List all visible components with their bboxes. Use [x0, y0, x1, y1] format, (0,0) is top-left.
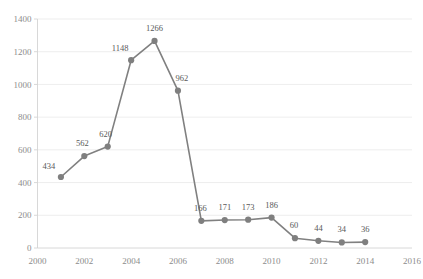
data-point-marker — [339, 239, 345, 245]
data-point-marker — [268, 214, 274, 220]
y-tick-label: 1400 — [14, 14, 33, 24]
data-point-marker — [222, 217, 228, 223]
y-tick-label: 1200 — [14, 47, 33, 57]
data-point-label: 166 — [194, 203, 207, 213]
data-point-label: 186 — [265, 200, 278, 210]
y-axis-ticks: 0200400600800100012001400 — [14, 14, 38, 253]
data-point-label: 1148 — [112, 43, 129, 53]
data-point-marker — [292, 235, 298, 241]
data-point-label: 620 — [99, 129, 112, 139]
line-chart: 0200400600800100012001400200020022004200… — [0, 0, 423, 279]
x-axis-ticks: 200020022004200620082010201220142016 — [29, 256, 422, 266]
data-point-label: 36 — [361, 224, 370, 234]
x-tick-label: 2012 — [309, 256, 327, 266]
y-tick-label: 0 — [27, 243, 32, 253]
y-tick-label: 800 — [18, 112, 32, 122]
axes — [38, 19, 413, 248]
y-tick-label: 400 — [18, 178, 32, 188]
data-point-marker — [81, 153, 87, 159]
series-line — [61, 41, 365, 243]
data-point-marker — [128, 57, 134, 63]
data-point-label: 434 — [43, 161, 57, 171]
x-tick-label: 2002 — [75, 256, 93, 266]
chart-canvas: 0200400600800100012001400200020022004200… — [0, 0, 423, 279]
data-point-label: 44 — [314, 223, 323, 233]
data-point-marker — [58, 174, 64, 180]
data-point-marker — [151, 38, 157, 44]
data-point-marker — [362, 239, 368, 245]
x-tick-label: 2000 — [29, 256, 48, 266]
data-point-marker — [198, 218, 204, 224]
data-point-label: 173 — [242, 202, 255, 212]
data-point-marker — [105, 143, 111, 149]
x-tick-label: 2004 — [122, 256, 141, 266]
y-tick-label: 1000 — [14, 80, 33, 90]
y-gridlines — [38, 19, 413, 215]
data-point-marker — [245, 217, 251, 223]
data-point-label: 562 — [76, 138, 89, 148]
x-tick-label: 2010 — [263, 256, 282, 266]
data-point-label: 171 — [218, 202, 231, 212]
data-labels: 4345626201148126696216617117318660443436 — [43, 23, 370, 235]
data-point-label: 60 — [290, 220, 299, 230]
data-point-marker — [315, 238, 321, 244]
data-point-marker — [175, 88, 181, 94]
x-tick-label: 2006 — [169, 256, 188, 266]
y-tick-label: 200 — [18, 210, 32, 220]
y-tick-label: 600 — [18, 145, 32, 155]
series-markers — [58, 38, 368, 246]
x-tick-label: 2016 — [403, 256, 422, 266]
data-point-label: 962 — [176, 73, 189, 83]
x-tick-label: 2008 — [216, 256, 235, 266]
data-point-label: 34 — [338, 224, 347, 234]
data-point-label: 1266 — [146, 23, 163, 33]
x-tick-label: 2014 — [356, 256, 375, 266]
